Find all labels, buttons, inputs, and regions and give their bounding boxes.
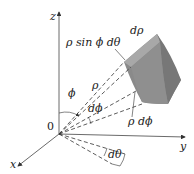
z-axis-label: z [49, 10, 56, 23]
x-axis-label: x [10, 158, 17, 171]
spherical-coordinates-diagram: z y x 0 ρ sin ϕ dθ dρ ϕ ρ dϕ ρ dϕ dθ [0, 0, 194, 174]
d-phi-label: dϕ [88, 102, 103, 115]
d-theta-label: dθ [108, 148, 122, 161]
rho-d-phi-label: ρ dϕ [127, 115, 153, 128]
origin-label: 0 [47, 120, 54, 133]
dtheta-arc [104, 148, 107, 156]
dphi-arc [88, 117, 91, 124]
phi-arc [59, 112, 79, 116]
rho-line-2 [59, 67, 131, 134]
rho-label: ρ [91, 79, 99, 92]
rho-sin-phi-pointer [115, 49, 125, 60]
y-axis [59, 134, 185, 137]
phi-label: ϕ [68, 87, 76, 100]
rho-sin-phi-dtheta-label: ρ sin ϕ dθ [65, 36, 121, 49]
d-rho-label: dρ [130, 24, 144, 37]
proj-line-2 [59, 134, 112, 164]
volume-element-wedge [124, 34, 181, 104]
rho-dphi-pointer [132, 92, 135, 117]
y-axis-label: y [179, 140, 187, 153]
x-axis [18, 134, 59, 166]
